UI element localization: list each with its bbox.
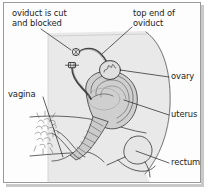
label-rectum: rectum: [171, 158, 200, 168]
ovary-organ: [100, 61, 121, 80]
label-uterus: uterus: [171, 110, 197, 120]
label-top-end-of-oviduct: top end of oviduct: [133, 9, 175, 28]
oviduct-clip-upper: [72, 48, 79, 55]
label-vagina: vagina: [8, 90, 36, 100]
label-oviduct-cut: oviduct is cut and blocked: [12, 9, 67, 28]
label-ovary: ovary: [171, 72, 194, 82]
anatomy-figure: oviduct is cut and blocked top end of ov…: [0, 0, 209, 193]
